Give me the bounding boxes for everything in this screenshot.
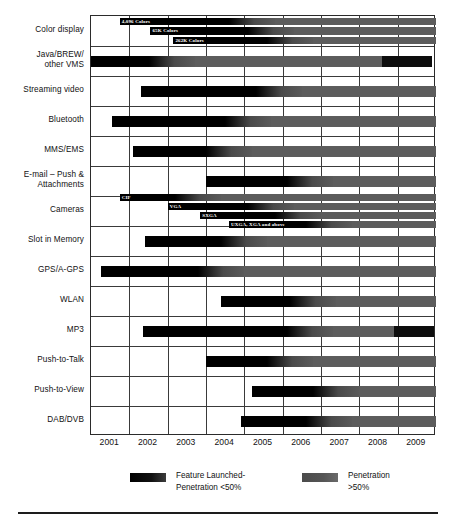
bar-label: VGA bbox=[170, 203, 182, 210]
bar-segment-transition bbox=[287, 326, 333, 337]
year-tick-2005: 2005 bbox=[243, 437, 283, 447]
gridline-row-1 bbox=[91, 46, 434, 47]
bar: 262K Colors bbox=[173, 37, 436, 44]
bar-segment-launched bbox=[112, 116, 225, 127]
bar-segment-penetration bbox=[271, 116, 436, 127]
bar-segment-penetration bbox=[244, 266, 436, 277]
bar: 4,096 Colors bbox=[120, 18, 436, 25]
bar-segment-launched bbox=[133, 146, 206, 157]
bar-segment-launched bbox=[206, 356, 267, 367]
gridline-row-12 bbox=[91, 376, 434, 377]
year-tick-2002: 2002 bbox=[128, 437, 168, 447]
category-label: E-mail – Push &Attachments bbox=[0, 170, 84, 190]
bar-segment-transition bbox=[248, 203, 294, 210]
bar bbox=[252, 386, 436, 397]
bar-segment-penetration bbox=[321, 212, 436, 219]
bar bbox=[91, 56, 432, 67]
bar-segment-penetration bbox=[313, 356, 436, 367]
category-axis: Color displayJava/BREW/other VMSStreamin… bbox=[0, 15, 86, 435]
category-label: MMS/EMS bbox=[0, 145, 84, 155]
bar-label: UXGA, XGA and above bbox=[231, 221, 285, 228]
bar-segment-penetration bbox=[302, 86, 436, 97]
bar-segment-transition bbox=[225, 116, 271, 127]
bar-segment-launched bbox=[252, 386, 313, 397]
bar-segment-transition bbox=[287, 176, 333, 187]
category-label: Streaming video bbox=[0, 85, 84, 95]
bar-segment-launched bbox=[145, 236, 222, 247]
bar-segment-transition bbox=[248, 27, 294, 34]
bar bbox=[143, 326, 434, 337]
bar-segment-penetration bbox=[267, 236, 436, 247]
bar bbox=[221, 296, 436, 307]
category-label: Cameras bbox=[0, 205, 84, 215]
category-label: MP3 bbox=[0, 325, 84, 335]
year-tick-2009: 2009 bbox=[396, 437, 436, 447]
bar bbox=[112, 116, 436, 127]
bar-segment-penetration bbox=[359, 386, 436, 397]
bar-segment-transition bbox=[229, 18, 275, 25]
year-tick-2001: 2001 bbox=[89, 437, 129, 447]
bar-segment-tail bbox=[382, 56, 432, 67]
year-axis: 200120022003200420052006200720082009 bbox=[90, 437, 435, 453]
bar-segment-transition bbox=[256, 86, 302, 97]
bar-segment-penetration bbox=[333, 176, 437, 187]
bar-segment-transition bbox=[313, 386, 359, 397]
bar-segment-transition bbox=[267, 37, 313, 44]
bar-segment-launched bbox=[241, 416, 306, 427]
legend-swatch bbox=[130, 473, 166, 482]
footer-rule bbox=[18, 512, 438, 514]
bar-segment-launched bbox=[206, 176, 287, 187]
bar-label: 4,096 Colors bbox=[122, 18, 150, 25]
bar: VGA bbox=[168, 203, 436, 210]
bar-segment-launched bbox=[101, 266, 199, 277]
bar-label: 262K Colors bbox=[175, 37, 203, 44]
bar-segment-transition bbox=[275, 212, 321, 219]
gridline-row-2 bbox=[91, 76, 434, 77]
bar-segment-transition bbox=[267, 356, 313, 367]
bar-segment-penetration bbox=[252, 146, 436, 157]
bar-segment-transition bbox=[306, 416, 352, 427]
bar bbox=[241, 416, 437, 427]
bar: UXGA, XGA and above bbox=[229, 221, 436, 228]
bar-segment-penetration bbox=[313, 37, 436, 44]
bar bbox=[206, 356, 436, 367]
bar-segment-penetration bbox=[352, 221, 436, 228]
legend-label: Feature Launched-Penetration <50% bbox=[176, 470, 245, 493]
gridline-row-3 bbox=[91, 106, 434, 107]
bar-segment-penetration bbox=[294, 203, 436, 210]
gridline-row-4 bbox=[91, 136, 434, 137]
year-tick-2006: 2006 bbox=[281, 437, 321, 447]
gridline-row-13 bbox=[91, 406, 434, 407]
bar-segment-transition bbox=[206, 146, 252, 157]
bar-label: 65K Colors bbox=[152, 27, 178, 34]
year-tick-2008: 2008 bbox=[358, 437, 398, 447]
bar: SXGA bbox=[200, 212, 436, 219]
bar: 65K Colors bbox=[150, 27, 436, 34]
bar-segment-transition bbox=[198, 266, 244, 277]
bar-segment-penetration bbox=[275, 18, 436, 25]
bar-segment-transition bbox=[290, 296, 336, 307]
chart-legend: Feature Launched-Penetration <50%Penetra… bbox=[90, 470, 435, 504]
year-tick-2004: 2004 bbox=[204, 437, 244, 447]
bar-segment-transition bbox=[149, 56, 195, 67]
bar-segment-penetration bbox=[336, 296, 436, 307]
category-label: Slot in Memory bbox=[0, 235, 84, 245]
gridline-row-10 bbox=[91, 316, 434, 317]
category-label: GPS/A-GPS bbox=[0, 265, 84, 275]
plot-area: 4,096 Colors65K Colors262K ColorsCIFVGAS… bbox=[90, 15, 435, 435]
legend-swatch bbox=[302, 473, 338, 482]
bar-segment-launched bbox=[141, 86, 256, 97]
bar-segment-transition bbox=[306, 221, 352, 228]
category-label: Java/BREW/other VMS bbox=[0, 50, 84, 70]
gridline-row-8 bbox=[91, 256, 434, 257]
bar-segment-launched bbox=[221, 296, 290, 307]
bar-segment-penetration bbox=[221, 194, 436, 201]
bar-label: CIF bbox=[122, 194, 131, 201]
gridline-row-9 bbox=[91, 286, 434, 287]
gridline-year-2003 bbox=[168, 16, 169, 434]
category-label: Push-to-View bbox=[0, 385, 84, 395]
bar-label: SXGA bbox=[202, 212, 217, 219]
legend-label: Penetration>50% bbox=[348, 470, 390, 493]
bar-segment-penetration bbox=[294, 27, 436, 34]
bar: CIF bbox=[120, 194, 436, 201]
